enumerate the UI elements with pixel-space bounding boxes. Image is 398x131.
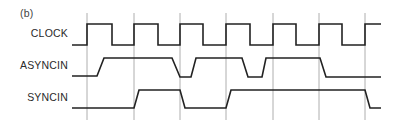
clock-waveform — [72, 24, 381, 45]
asyncin-waveform — [72, 58, 381, 77]
timing-diagram — [0, 0, 398, 131]
syncin-waveform — [72, 90, 381, 108]
